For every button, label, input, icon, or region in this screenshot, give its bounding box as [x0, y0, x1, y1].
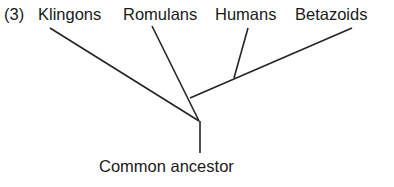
branch-tip_betazoids-to-node_upper [190, 28, 352, 98]
branch-tip_humans-to-node_humans_betazoids [234, 28, 248, 78]
root-label-common-ancestor: Common ancestor [99, 157, 234, 176]
branch-group [50, 26, 352, 153]
phylogenetic-tree-figure: (3) Klingons Romulans Humans Betazoids C… [0, 0, 394, 187]
